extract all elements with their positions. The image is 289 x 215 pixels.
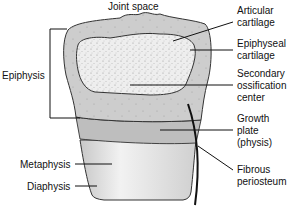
label-diaphysis: Diaphysis	[27, 181, 70, 192]
label-epiphysis: Epiphysis	[2, 70, 45, 81]
label-growth-plate: Growth plate (physis)	[237, 113, 272, 148]
label-secondary-ossification-center: Secondary ossification center	[237, 68, 289, 103]
label-joint-space: Joint space	[108, 1, 159, 12]
bone-shaft	[80, 140, 196, 200]
label-epiphyseal-cartilage: Epiphyseal cartilage	[237, 38, 289, 61]
bone-diagram: Joint space Articular cartilage Epiphyse…	[0, 0, 289, 215]
secondary-ossification-center	[77, 33, 196, 95]
label-articular-cartilage: Articular cartilage	[237, 5, 276, 28]
label-fibrous-periosteum: Fibrous periosteum	[237, 164, 286, 187]
label-metaphysis: Metaphysis	[20, 159, 71, 170]
